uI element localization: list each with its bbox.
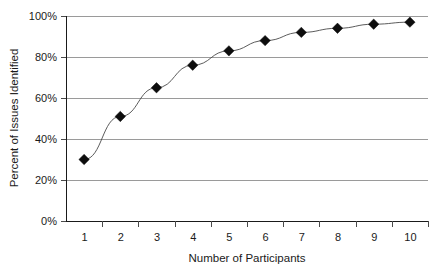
- line-chart: 100% 80% 60% 40% 20% 0% 1 2 3 4 5 6: [0, 0, 436, 279]
- x-axis-title: Number of Participants: [189, 252, 306, 264]
- x-tick-label-3: 3: [154, 231, 160, 243]
- y-tick-label-20: 20%: [35, 174, 57, 186]
- x-tick-label-2: 2: [118, 231, 124, 243]
- x-tick-label-6: 6: [263, 231, 269, 243]
- y-tick-label-60: 60%: [35, 92, 57, 104]
- x-tick-label-1: 1: [82, 231, 88, 243]
- y-tick-label-0: 0%: [41, 215, 57, 227]
- x-tick-label-9: 9: [371, 231, 377, 243]
- x-tick-label-7: 7: [299, 231, 305, 243]
- x-tick-label-4: 4: [190, 231, 196, 243]
- y-tick-label-40: 40%: [35, 133, 57, 145]
- x-tick-label-8: 8: [335, 231, 341, 243]
- y-axis-title: Percent of Issues Identified: [8, 49, 20, 188]
- x-tick-label-10: 10: [404, 231, 416, 243]
- y-tick-label-100: 100%: [29, 10, 57, 22]
- chart-container: 100% 80% 60% 40% 20% 0% 1 2 3 4 5 6: [0, 0, 436, 279]
- x-tick-label-5: 5: [226, 231, 232, 243]
- y-tick-label-80: 80%: [35, 51, 57, 63]
